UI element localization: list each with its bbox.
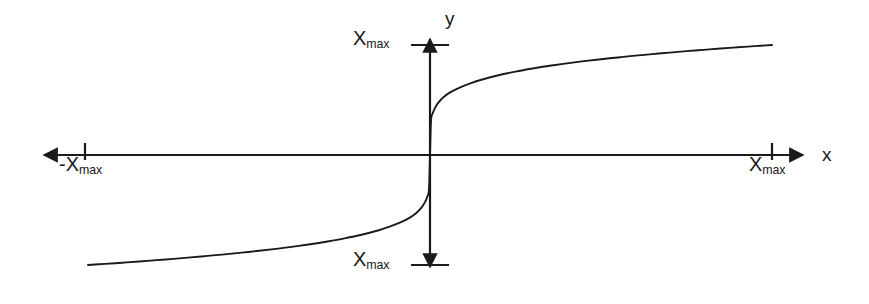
y-axis-name-label: y bbox=[445, 9, 455, 28]
y-axis-min-label: Xmax bbox=[353, 249, 389, 269]
x-axis-name-label: x bbox=[822, 145, 832, 164]
x-axis-min-symbol: -X bbox=[59, 153, 79, 175]
y-axis-max-subscript: max bbox=[366, 37, 389, 51]
y-axis-min-symbol: X bbox=[353, 248, 366, 270]
plot-canvas bbox=[0, 0, 869, 304]
x-axis-max-subscript: max bbox=[762, 163, 785, 177]
y-axis-max-label: Xmax bbox=[353, 28, 389, 48]
x-axis-max-symbol: X bbox=[749, 153, 762, 175]
x-axis-max-label: Xmax bbox=[749, 154, 785, 174]
y-axis-max-symbol: X bbox=[353, 27, 366, 49]
y-axis-min-subscript: max bbox=[366, 258, 389, 272]
x-axis-min-label: -Xmax bbox=[59, 154, 102, 174]
saturation-curve-figure: Xmax Xmax -Xmax Xmax y x bbox=[0, 0, 869, 304]
x-axis-min-subscript: max bbox=[79, 163, 102, 177]
